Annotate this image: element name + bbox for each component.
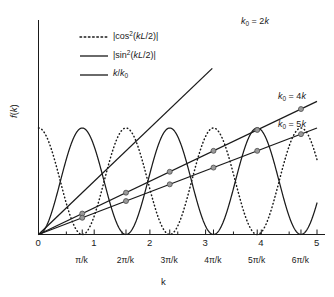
x-tick-label-pi: π/k (75, 256, 87, 265)
linear-series-k2k (39, 68, 213, 234)
intersection-marker (123, 190, 128, 195)
intersection-marker (80, 215, 85, 220)
x-tick-label-pi: 3π/k (161, 256, 178, 265)
y-axis-title: f(k) (8, 104, 19, 118)
legend-label-sin: |sin2(kL/2)| (113, 50, 156, 60)
legend-label-kk0: k/k0 (113, 69, 128, 79)
x-tick-label-numeric: 5 (314, 238, 319, 248)
plot-canvas (0, 0, 334, 297)
legend-label-cos: |cos2(kL/2)| (113, 31, 158, 41)
intersection-marker (167, 169, 172, 174)
annotation-line-4k: k0 = 4k (278, 92, 306, 102)
linear-series-group (39, 68, 318, 234)
annotation-line-2k: k0 = 2k (241, 17, 269, 27)
intersection-marker (123, 199, 128, 204)
legend-line-samples (80, 37, 108, 75)
x-tick-label-pi: 5π/k (248, 256, 265, 265)
x-tick-label-numeric: 3 (203, 238, 208, 248)
x-tick-label-numeric: 0 (36, 238, 41, 248)
intersection-marker (211, 165, 216, 170)
annotation-line-5k: k0 = 5k (278, 120, 306, 130)
intersection-marker (211, 148, 216, 153)
figure-container: f(k) k 012345 π/k2π/k3π/k4π/k5π/k6π/k |c… (0, 0, 334, 297)
intersection-marker (255, 127, 260, 132)
intersection-marker (167, 182, 172, 187)
x-tick-label-numeric: 1 (91, 238, 96, 248)
x-tick-label-pi: 6π/k (292, 256, 309, 265)
x-tick-label-numeric: 2 (147, 238, 152, 248)
x-tick-label-numeric: 4 (258, 238, 263, 248)
intersection-marker (298, 132, 303, 137)
x-axis-title: k (161, 277, 166, 287)
intersection-marker (255, 148, 260, 153)
x-tick-label-pi: 4π/k (204, 256, 221, 265)
x-tick-label-pi: 2π/k (117, 256, 134, 265)
intersection-marker (298, 107, 303, 112)
